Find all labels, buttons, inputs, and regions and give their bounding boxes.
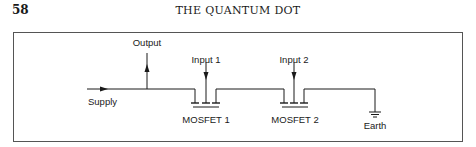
earth-label: Earth (364, 120, 387, 131)
supply-label: Supply (88, 96, 117, 107)
circuit-diagram: Output Supply Input 1 Input 2 MOSFET 1 M… (0, 0, 476, 147)
mosfet-2-symbol (280, 62, 308, 107)
output-arrow-icon (145, 64, 150, 72)
input-1-label: Input 1 (191, 54, 220, 65)
input-2-arrow-icon (292, 72, 297, 80)
output-label: Output (133, 37, 162, 48)
earth-wire (304, 89, 375, 112)
mosfet-1-label: MOSFET 1 (182, 114, 229, 125)
earth-icon (369, 112, 381, 117)
mosfet-1-symbol (191, 62, 220, 107)
supply-arrow-icon (100, 87, 108, 92)
mosfet-2-label: MOSFET 2 (271, 114, 318, 125)
supply-wire (87, 87, 195, 92)
output-branch (145, 53, 150, 89)
input-2-label: Input 2 (279, 54, 308, 65)
input-1-arrow-icon (204, 72, 209, 80)
